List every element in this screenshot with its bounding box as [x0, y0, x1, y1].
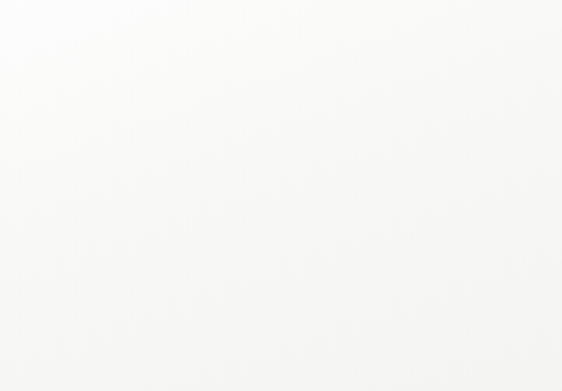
notes-block: Notes: 1Percentages, based on numbers of…	[22, 318, 522, 356]
legend-item-domestic-premises: Domestic premises	[70, 276, 174, 287]
figure-title-suffix: , by source of noise	[392, 16, 493, 28]
figure-frame-shadow	[14, 380, 550, 383]
note-text-2: Road and air traffic and other sources o…	[31, 337, 495, 355]
note-item-1: 1Percentages, based on numbers of compla…	[22, 328, 522, 337]
page-title: Figure 12.4 Noise complaints received by…	[22, 15, 493, 28]
legend-item-roadworks: Roadworks, construction and demolition	[318, 276, 504, 287]
pie-sc-label-49: 49%	[318, 202, 336, 212]
legend-label-domestic-premises: Domestic premises	[98, 277, 174, 287]
legend-label-other-text: Other	[346, 296, 368, 306]
pie-ew-label-6: 6%	[196, 106, 209, 116]
legend-label-other-footnote-marker: 2	[371, 294, 375, 301]
legend-label-industrial-premises: Industrial and commercial premises	[98, 295, 238, 305]
figure-page: Figure 12.4 Noise complaints received by…	[0, 0, 562, 391]
pie-ew-label-26: 26%	[98, 72, 116, 82]
note-text-1: Percentages, based on numbers of complai…	[31, 328, 243, 337]
panel-heading-england-wales: England and Wales (1989 to 1990)	[80, 47, 232, 58]
legend-swatch-other	[318, 294, 337, 305]
source-credit: Source: IEHO, REHIS	[444, 364, 536, 374]
legend-swatch-industrial-premises	[70, 294, 89, 305]
pie-ew-label-61: 61%	[82, 233, 100, 243]
note-number-2: 2	[22, 337, 31, 346]
legend-item-industrial-premises: Industrial and commercial premises	[70, 294, 238, 305]
figure-title-text: Figure 12.4 Noise complaints received by…	[22, 16, 388, 28]
pie-ew-label-7: 7%	[228, 138, 241, 148]
pie-sc-label-17: 17%	[482, 104, 500, 114]
legend-label-other: Other2	[346, 294, 375, 306]
legend-swatch-domestic-premises	[70, 276, 89, 287]
panel-heading-scotland: Scotland (1990)	[380, 47, 450, 58]
note-item-2: 2Road and air traffic and other sources …	[22, 337, 522, 356]
legend-label-roadworks: Roadworks, construction and demolition	[346, 277, 504, 287]
pie-sc-label-15: 15%	[403, 64, 421, 74]
legend-swatch-roadworks	[318, 276, 337, 287]
note-number-1: 1	[22, 328, 31, 337]
notes-heading: Notes:	[22, 318, 522, 327]
legend-item-other: Other2	[318, 294, 375, 306]
pie-sc-label-19: 19%	[481, 212, 499, 222]
